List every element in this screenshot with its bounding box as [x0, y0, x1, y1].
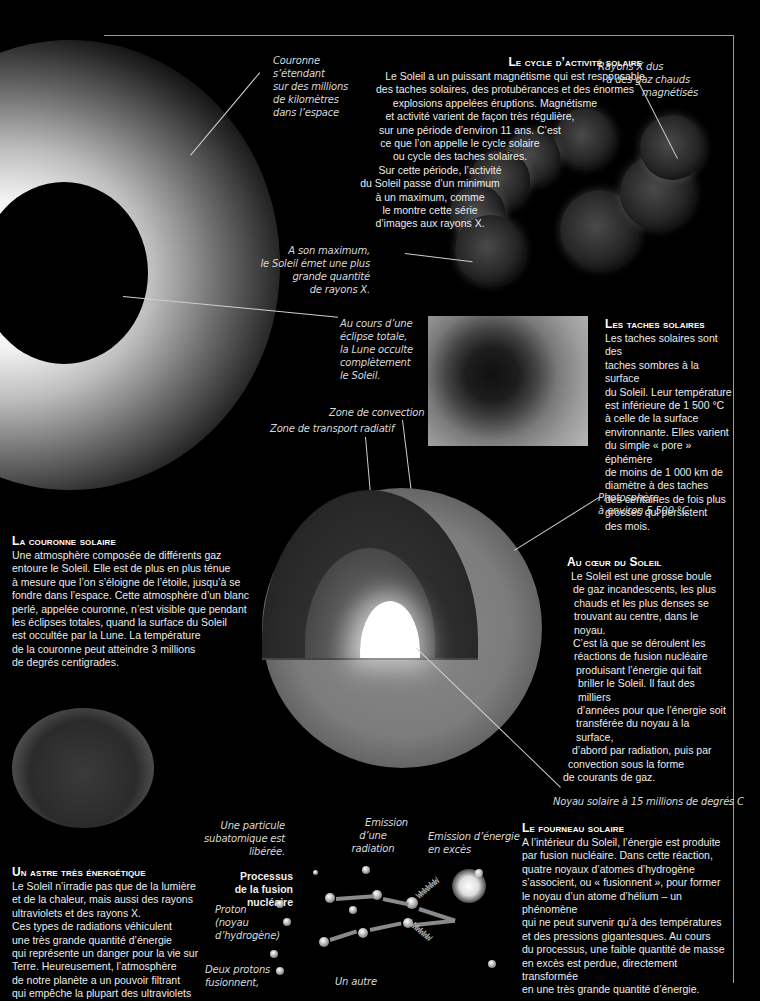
- text-line: Le Soleil n’irradie pas que de la lumièr…: [12, 880, 212, 893]
- title-line: Processus: [205, 870, 293, 883]
- caption-line: Photosphère: [598, 491, 688, 504]
- text-line: fondre dans l’espace. Cette atmosphère d…: [12, 589, 252, 602]
- reaction-arrow: [336, 894, 374, 901]
- leader-line: [514, 497, 599, 551]
- section-furnace: Le fourneau solaire A l’intérieur du Sol…: [522, 821, 732, 997]
- text-line: les éclipses totales, quand la surface d…: [12, 616, 252, 629]
- sunspot-image: [428, 316, 588, 446]
- section-energetic: Un astre très énergétique Le Soleil n’ir…: [12, 865, 212, 1001]
- caption-maximum: A son maximum, le Soleil émet une plus g…: [250, 244, 370, 296]
- proton: [362, 866, 370, 874]
- corona-paragraph: Une atmosphère composée de différents ga…: [12, 549, 252, 670]
- caption-line: complètement: [340, 356, 430, 369]
- caption-line: le Soleil.: [340, 369, 430, 382]
- text-line: de moins de 1 000 km de: [605, 466, 735, 479]
- caption-line: éclipse totale,: [340, 330, 430, 343]
- section-title: Au cœur du Soleil: [567, 555, 727, 570]
- text-line: transférée du noyau à la surface,: [576, 717, 727, 744]
- text-line: et activité varient de façon très réguli…: [300, 110, 660, 123]
- caption-line: Emission: [338, 816, 408, 829]
- caption-solar-core: Noyau solaire à 15 millions de degrés C: [553, 795, 744, 808]
- text-line: de notre planète a un pouvoir filtrant: [12, 974, 212, 987]
- text-line: environnante. Elles varient: [605, 426, 735, 439]
- caption-line: fusionnent,: [205, 976, 270, 989]
- caption-radiative-zone: Zone de transport radiatif: [270, 422, 394, 435]
- text-line: et des pressions gigantesques. Au cours: [522, 930, 732, 943]
- text-line: en excès est perdue, directement transfo…: [522, 957, 732, 984]
- text-line: d’images aux rayons X.: [300, 217, 560, 230]
- text-line: à celle de la surface: [605, 412, 735, 425]
- section-corona: La couronne solaire Une atmosphère compo…: [12, 534, 252, 670]
- proton: [270, 950, 278, 958]
- caption-photosphere: Photosphère à environ 5 500 °C: [598, 491, 688, 517]
- text-line: Une atmosphère composée de différents ga…: [12, 549, 252, 562]
- furnace-paragraph: A l’intérieur du Soleil, l’énergie est p…: [522, 836, 732, 997]
- reaction-arrow: [329, 929, 357, 941]
- section-title: Les taches solaires: [605, 317, 735, 332]
- uv-sun-image: [12, 708, 154, 828]
- text-line: à un maximum, comme: [300, 191, 560, 204]
- text-line: est inférieure de 1 500 °C: [605, 399, 735, 412]
- text-line: convection sous la forme: [568, 758, 727, 771]
- text-line: Les taches solaires sont des: [605, 332, 735, 359]
- section-core: Au cœur du Soleil Le Soleil est une gros…: [567, 555, 727, 785]
- caption-line: A son maximum,: [250, 244, 370, 257]
- text-line: chauds et les plus denses se: [574, 597, 727, 610]
- text-line: C’est là que se déroulent les: [573, 637, 727, 650]
- proton: [276, 967, 284, 975]
- text-line: trouvant au centre, dans le noyau.: [574, 610, 727, 637]
- section-title: Le fourneau solaire: [522, 821, 732, 836]
- text-line: ultraviolets et des rayons X.: [12, 907, 212, 920]
- text-line: ce que l’on appelle le cycle solaire: [300, 137, 620, 150]
- text-line: qui représente un danger pour la vie sur: [12, 947, 212, 960]
- core-paragraph: Le Soleil est une grosse boule de gaz in…: [567, 570, 727, 785]
- caption-line: Proton: [215, 903, 280, 916]
- text-line: de la couronne peut atteindre 3 millions: [12, 643, 252, 656]
- caption-line: Rayons X dus: [598, 60, 698, 73]
- deuterium: [319, 937, 329, 947]
- section-title: La couronne solaire: [12, 534, 252, 549]
- text-line: d’années pour que l’énergie soit: [577, 704, 727, 717]
- text-line: en une très grande quantité d’énergie.: [522, 983, 732, 996]
- text-line: réactions de fusion nucléaire: [574, 650, 727, 663]
- text-line: une très grande quantité d’énergie: [12, 934, 212, 947]
- text-line: de degrés centigrades.: [12, 656, 252, 669]
- caption-line: d’une radiation: [338, 829, 408, 855]
- proton: [283, 918, 291, 926]
- caption-excess-energy: Emission d’énergie en excès: [428, 830, 520, 856]
- energetic-paragraph: Le Soleil n’irradie pas que de la lumièr…: [12, 880, 212, 1001]
- text-line: ou cycle des taches solaires.: [300, 150, 620, 163]
- caption-line: grande quantité: [250, 270, 370, 283]
- text-line: du Soleil passe d’un minimum: [300, 177, 560, 190]
- text-line: taches sombres à la surface: [605, 359, 735, 386]
- reaction-arrow: [370, 921, 402, 932]
- text-line: sur une période d’environ 11 ans. C’est: [300, 124, 640, 137]
- caption-radiation: Emission d’une radiation: [338, 816, 408, 855]
- text-line: le noyau d’un atome d’hélium – un phénom…: [522, 890, 732, 917]
- proton: [276, 900, 284, 908]
- caption-convection-zone: Zone de convection: [329, 406, 424, 419]
- reaction-arrow: [383, 897, 409, 906]
- text-line: est occultée par la Lune. La température: [12, 629, 252, 642]
- caption-line: la Lune occulte: [340, 343, 430, 356]
- caption-line: de rayons X.: [250, 283, 370, 296]
- caption-another: Un autre: [335, 975, 377, 988]
- text-line: du Soleil. Leur température: [605, 386, 735, 399]
- radiation-wave-icon: WWWWWW: [414, 876, 441, 901]
- text-line: par fusion nucléaire. Dans cette réactio…: [522, 849, 732, 862]
- caption-line: Une particule: [190, 819, 285, 832]
- top-rule: [104, 35, 734, 36]
- caption-proton: Proton (noyau d’hydrogène): [215, 903, 280, 942]
- text-line: du processus, une faible quantité de mas…: [522, 943, 732, 956]
- caption-line: à des gaz chauds: [578, 73, 690, 86]
- text-line: des mois.: [605, 520, 735, 533]
- text-line: d’abord par radiation, puis par: [572, 744, 727, 757]
- caption-line: magnétisés: [578, 86, 698, 99]
- text-line: Terre. Heureusement, l’atmosphère: [12, 960, 212, 973]
- text-line: s’associent, ou « fusionnent », pour for…: [522, 876, 732, 889]
- caption-line: Deux protons: [205, 963, 270, 976]
- caption-line: le Soleil émet une plus: [250, 257, 370, 270]
- text-line: du simple « pore » éphémère: [605, 439, 735, 466]
- deuterium: [325, 893, 335, 903]
- text-line: de gaz incandescents, les plus: [573, 583, 727, 596]
